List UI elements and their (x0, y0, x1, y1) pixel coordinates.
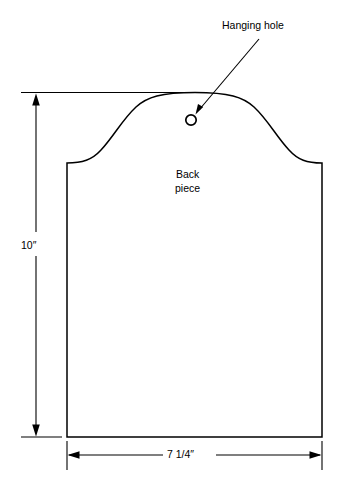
back-piece-label: Back piece (175, 167, 200, 195)
pattern-diagram: Hanging hole Back piece 10″ 7 1/4″ (0, 0, 343, 490)
hanging-hole-leader-line (199, 39, 259, 110)
width-dimension-label: 7 1/4″ (164, 448, 197, 461)
width-arrowhead-left (68, 451, 80, 459)
height-arrowhead-top (32, 94, 40, 106)
back-piece-label-line2: piece (175, 181, 200, 195)
back-piece-outline (67, 93, 322, 438)
hanging-hole-label: Hanging hole (221, 19, 285, 32)
hanging-hole-icon (186, 115, 196, 125)
height-arrowhead-bottom (32, 425, 40, 437)
pattern-drawing (0, 0, 343, 490)
height-dimension-label: 10″ (19, 238, 38, 253)
width-arrowhead-right (310, 451, 322, 459)
back-piece-label-line1: Back (175, 167, 200, 181)
